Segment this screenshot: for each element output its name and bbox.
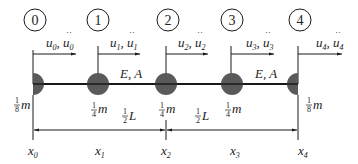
svg-text:1: 1 <box>307 96 311 105</box>
svg-text:1: 1 <box>95 13 102 28</box>
dimension-label-2: 1 2 L <box>195 107 209 125</box>
element-label-1: E, A <box>119 66 142 81</box>
mass-label-0: 1 8 m <box>14 96 30 114</box>
svg-text:1: 1 <box>160 101 164 110</box>
coordinate-labels: x0 x1 x2 x3 x4 <box>27 143 308 160</box>
svg-text:4: 4 <box>92 110 96 119</box>
svg-text:L: L <box>128 108 136 123</box>
node-3-label: 3 <box>221 9 243 31</box>
node-4-label: 4 <box>289 9 311 31</box>
node-1-label: 1 <box>87 9 109 31</box>
node-0-label: 0 <box>24 9 46 31</box>
svg-text:1: 1 <box>15 96 19 105</box>
svg-text:1: 1 <box>92 101 96 110</box>
svg-text:u2, u2: u2, u2 <box>178 35 206 52</box>
svg-text:1: 1 <box>123 107 127 116</box>
dimension-label-1: 1 2 L <box>122 107 136 125</box>
svg-text:m: m <box>313 97 322 112</box>
svg-text:0: 0 <box>32 13 39 28</box>
svg-text:m: m <box>232 101 241 116</box>
coord-x2: x2 <box>160 143 171 160</box>
mass-label-1: 1 4 m <box>91 101 107 119</box>
svg-text:··: ·· <box>129 27 135 37</box>
mass-labels: 1 8 m 1 4 m 1 4 m 1 4 m 1 8 m <box>14 96 322 119</box>
svg-text:4: 4 <box>226 110 230 119</box>
svg-text:4: 4 <box>160 110 164 119</box>
svg-text:u3, u3: u3, u3 <box>246 35 274 52</box>
svg-text:1: 1 <box>226 101 230 110</box>
svg-text:m: m <box>98 101 107 116</box>
svg-text:m: m <box>166 101 175 116</box>
lumped-mass-bar-diagram: 0 1 2 3 4 u0, u0 ·· u1, u <box>0 0 358 164</box>
svg-text:u4, u4: u4, u4 <box>316 35 344 52</box>
disp-label-0: u0, u0 ·· <box>46 27 74 52</box>
coord-x4: x4 <box>297 143 308 160</box>
node-2-label: 2 <box>157 9 179 31</box>
disp-label-4: u4, u4 ·· <box>316 27 344 52</box>
svg-text:··: ·· <box>265 27 271 37</box>
coord-x3: x3 <box>229 143 240 160</box>
element-label-2: E, A <box>254 66 277 81</box>
svg-text:u1, u1: u1, u1 <box>110 35 138 52</box>
disp-label-2: u2, u2 ·· <box>178 27 206 52</box>
svg-text:2: 2 <box>196 116 200 125</box>
svg-text:1: 1 <box>196 107 200 116</box>
svg-text:u0, u0: u0, u0 <box>46 35 74 52</box>
svg-text:2: 2 <box>123 116 127 125</box>
svg-text:8: 8 <box>307 105 311 114</box>
svg-text:m: m <box>21 97 30 112</box>
svg-text:8: 8 <box>15 105 19 114</box>
coord-x1: x1 <box>94 143 105 160</box>
svg-text:··: ·· <box>197 27 203 37</box>
mass-label-3: 1 4 m <box>225 101 241 119</box>
mass-label-4: 1 8 m <box>306 96 322 114</box>
mass-label-2: 1 4 m <box>159 101 175 119</box>
coord-x0: x0 <box>27 143 38 160</box>
svg-text:··: ·· <box>335 27 341 37</box>
svg-text:2: 2 <box>165 13 172 28</box>
svg-text:L: L <box>201 108 209 123</box>
svg-text:··: ·· <box>66 27 72 37</box>
svg-text:4: 4 <box>297 13 304 28</box>
disp-label-1: u1, u1 ·· <box>110 27 138 52</box>
disp-label-3: u3, u3 ·· <box>246 27 274 52</box>
arrow-icon <box>298 46 342 84</box>
svg-text:3: 3 <box>229 13 236 28</box>
